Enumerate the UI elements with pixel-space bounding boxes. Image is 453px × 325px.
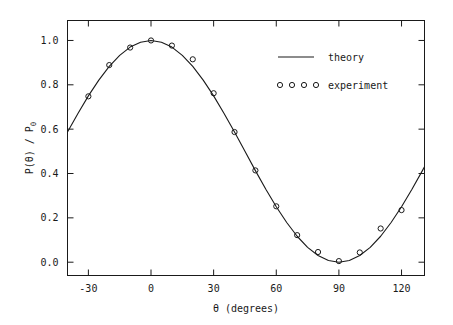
data-point (378, 226, 383, 231)
x-tick-label: -30 (79, 283, 97, 294)
y-tick-label: 1.0 (40, 35, 58, 46)
y-tick-label: 0.8 (40, 79, 58, 90)
legend-marker (277, 82, 282, 87)
legend-experiment-label: experiment (328, 80, 388, 91)
chart-figure: -300306090120 0.00.20.40.60.81.0 θ (degr… (0, 0, 453, 325)
data-point (315, 249, 320, 254)
x-tick-label: 90 (333, 283, 345, 294)
legend-theory-label: theory (328, 52, 364, 63)
plot-frame (68, 21, 425, 276)
x-axis-tick-labels: -300306090120 (79, 283, 410, 294)
x-tick-label: 30 (208, 283, 220, 294)
data-point (336, 258, 341, 263)
legend-marker (301, 82, 306, 87)
y-axis-ticks (68, 40, 425, 262)
y-axis-tick-labels: 0.00.20.40.60.81.0 (40, 35, 58, 268)
y-axis-label-group: P(θ) / P0 (24, 121, 38, 174)
legend-marker (289, 82, 294, 87)
y-tick-label: 0.2 (40, 212, 58, 223)
y-tick-label: 0.4 (40, 168, 58, 179)
y-tick-label: 0.6 (40, 124, 58, 135)
plot-canvas: -300306090120 0.00.20.40.60.81.0 θ (degr… (0, 0, 453, 325)
legend-marker (313, 82, 318, 87)
legend-experiment-marker-swatch (277, 82, 318, 87)
x-tick-label: 60 (270, 283, 282, 294)
chart-legend: theory experiment (277, 52, 388, 91)
data-point (190, 57, 195, 62)
series-theory-line (68, 40, 425, 262)
y-axis-label: P(θ) / P0 (24, 121, 38, 174)
y-tick-label: 0.0 (40, 257, 58, 268)
x-axis-label: θ (degrees) (213, 303, 279, 314)
data-point (357, 250, 362, 255)
x-tick-label: 0 (148, 283, 154, 294)
x-tick-label: 120 (393, 283, 411, 294)
